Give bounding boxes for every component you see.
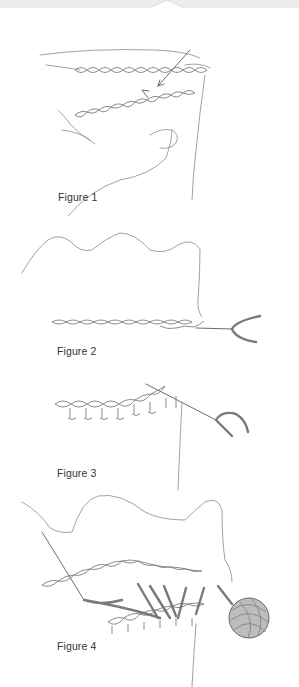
- figure-4-illustration: [0, 490, 299, 687]
- top-notch-decoration: [150, 0, 184, 9]
- figure-1-illustration: [0, 40, 299, 215]
- arrow-up-icon: [142, 90, 149, 98]
- figure-2: Figure 2: [0, 225, 299, 355]
- yarn-ball-icon: [229, 598, 269, 638]
- crochet-hook: [196, 328, 232, 329]
- figure-2-caption: Figure 2: [57, 345, 96, 357]
- chain-top: [75, 68, 207, 73]
- figure-3-illustration: [0, 380, 299, 490]
- figure-2-illustration: [0, 225, 299, 355]
- figure-4-caption: Figure 4: [57, 640, 96, 652]
- yarn-strand: [232, 316, 260, 342]
- chain-bottom: [75, 91, 195, 117]
- stitch-row: [55, 386, 176, 420]
- foundation-chain: [52, 320, 204, 329]
- figure-4: Figure 4: [0, 490, 299, 687]
- sewing-needle: [42, 532, 84, 600]
- figure-3-caption: Figure 3: [57, 467, 96, 479]
- top-chain: [42, 560, 202, 586]
- figure-1-caption: Figure 1: [58, 191, 97, 203]
- figure-3: Figure 3: [0, 380, 299, 490]
- yarn-strand: [216, 413, 248, 436]
- figure-1: Figure 1: [0, 40, 299, 215]
